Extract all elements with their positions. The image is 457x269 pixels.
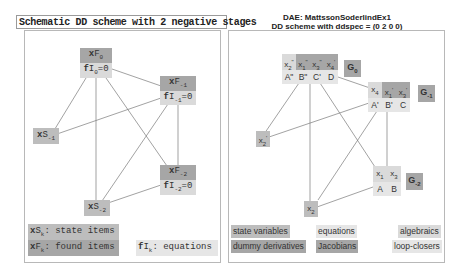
legend-equations-right: equations	[316, 225, 357, 238]
var-x2-dd: x2"	[282, 54, 296, 70]
var-x1-d: x1'	[382, 82, 396, 98]
node-x2: x2	[304, 201, 318, 217]
group-G-1: G-1	[418, 85, 435, 102]
var-x4-d: x4'	[324, 54, 338, 70]
legend-dummy-derivatives: dummy derivatives	[231, 240, 306, 253]
legend-algebraics: algebraics	[398, 225, 441, 238]
var-x1-dd: x1"	[296, 54, 310, 70]
eq-A-dd: A"	[282, 70, 296, 84]
legend-state-variables: state variables	[231, 225, 290, 238]
legend-loop-closers: loop-closers	[392, 240, 442, 253]
group-G-2: G-2	[406, 173, 423, 190]
group-G0: G0	[344, 60, 361, 77]
node-xS-1: xS-1	[33, 128, 59, 144]
var-x4: x4	[368, 82, 382, 98]
legend-found-items: xFk: found items	[28, 240, 119, 256]
eq-D: D	[324, 70, 338, 84]
eq-B-dd: B"	[296, 70, 310, 84]
node-xF-1: xF-1	[160, 76, 196, 91]
node-xS-2: xS-2	[84, 200, 110, 216]
var-x1: x1	[373, 166, 387, 182]
legend-equations: fIk: equations	[136, 240, 218, 256]
node-xF0: xF0	[80, 48, 112, 63]
legend-jacobians: Jacobians	[316, 240, 358, 253]
stage0-variables: x2" x1" x3" x4'	[282, 54, 338, 70]
legend-state-items: xSk: state items	[28, 224, 119, 240]
node-fI-1: fI-1=0	[160, 91, 196, 105]
var-x3-d: x3'	[396, 82, 410, 98]
stage1-equations: A' B' C	[368, 98, 410, 112]
node-fI-2: fI-2=0	[160, 180, 196, 195]
node-xF-2: xF-2	[160, 165, 196, 180]
node-fI0: fI0=0	[80, 63, 112, 78]
var-x3-dd: x3"	[310, 54, 324, 70]
eq-B: B	[387, 182, 401, 196]
eq-C: C	[396, 98, 410, 112]
var-x3: x3	[387, 166, 401, 182]
eq-C-d: C'	[310, 70, 324, 84]
eq-A: A	[373, 182, 387, 196]
stage1-variables: x4 x1' x3'	[368, 82, 410, 98]
stage2-equations: A B	[373, 182, 401, 196]
eq-A-d: A'	[368, 98, 382, 112]
stage2-variables: x1 x3	[373, 166, 401, 182]
stage0-equations: A" B" C' D	[282, 70, 338, 84]
node-x2-prime: x2'	[256, 131, 270, 147]
eq-B-d: B'	[382, 98, 396, 112]
